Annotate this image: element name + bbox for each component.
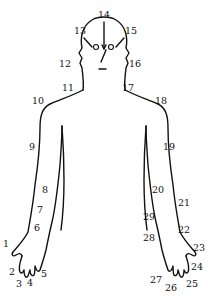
left-hand — [19, 126, 62, 277]
point-label-14: 14 — [98, 9, 110, 20]
point-label-17: 17 — [122, 82, 134, 93]
point-label-16: 16 — [129, 58, 141, 69]
nose — [101, 50, 106, 62]
point-label-2: 2 — [9, 266, 15, 277]
point-label-1: 1 — [3, 238, 9, 249]
point-label-22: 22 — [178, 224, 190, 235]
point-label-25: 25 — [186, 278, 198, 289]
point-label-20: 20 — [152, 184, 164, 195]
point-label-29: 29 — [143, 211, 155, 222]
point-label-21: 21 — [178, 197, 190, 208]
point-label-15: 15 — [125, 25, 137, 36]
point-label-4: 4 — [27, 277, 33, 288]
point-label-6: 6 — [34, 222, 40, 233]
point-label-26: 26 — [165, 282, 177, 293]
point-label-19: 19 — [163, 141, 175, 152]
point-label-11: 11 — [62, 82, 74, 93]
point-label-7: 7 — [37, 204, 43, 215]
point-label-3: 3 — [16, 278, 22, 289]
point-label-9: 9 — [29, 141, 35, 152]
left-arm-outer — [12, 90, 83, 256]
point-label-8: 8 — [42, 184, 48, 195]
pointer-13 — [84, 38, 92, 47]
left-eye — [94, 45, 99, 50]
point-label-28: 28 — [143, 232, 155, 243]
point-label-27: 27 — [150, 274, 162, 285]
point-label-23: 23 — [193, 242, 205, 253]
point-labels: 1 2 3 4 5 6 7 8 9 10 11 12 13 14 15 16 1… — [3, 9, 205, 293]
point-label-24: 24 — [191, 261, 203, 272]
point-label-18: 18 — [155, 95, 167, 106]
body-diagram: 1 2 3 4 5 6 7 8 9 10 11 12 13 14 15 16 1… — [0, 0, 208, 298]
right-eye — [109, 45, 114, 50]
pointer-15 — [116, 38, 124, 47]
point-label-5: 5 — [41, 268, 47, 279]
point-label-13: 13 — [74, 25, 86, 36]
point-label-10: 10 — [32, 95, 44, 106]
point-label-12: 12 — [59, 58, 71, 69]
